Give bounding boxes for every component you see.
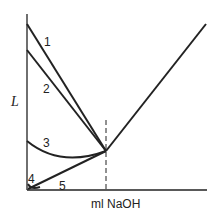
curve-1	[27, 24, 106, 151]
curve-3	[27, 141, 106, 158]
y-axis-label: L	[10, 94, 19, 109]
curve-5-label: 5	[59, 179, 66, 193]
curve-1-label: 1	[44, 35, 51, 49]
x-axis-label: ml NaOH	[91, 197, 140, 211]
conductometric-titration-chart: 1 2 3 4 5 L ml NaOH	[0, 0, 219, 217]
curve-2	[27, 50, 106, 151]
curve-4-label: 4	[28, 172, 35, 186]
curve-3-label: 3	[43, 136, 50, 150]
post-equivalence-line	[106, 24, 206, 151]
curve-2-label: 2	[43, 82, 50, 96]
